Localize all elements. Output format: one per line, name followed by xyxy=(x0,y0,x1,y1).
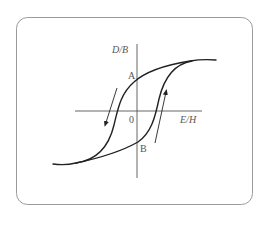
point-b-label: B xyxy=(140,143,147,154)
point-a-label: A xyxy=(128,70,136,81)
hysteresis-diagram: D/B E/H 0 A B xyxy=(0,0,269,226)
origin-label: 0 xyxy=(129,114,134,125)
x-axis-label: E/H xyxy=(179,114,197,125)
y-axis-label: D/B xyxy=(111,44,128,55)
